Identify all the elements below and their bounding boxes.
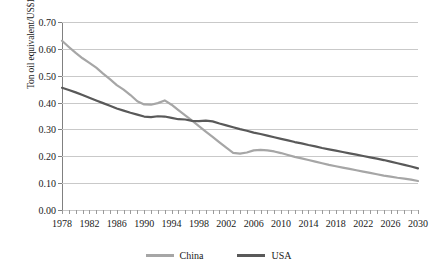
x-tick-mark bbox=[418, 210, 419, 214]
y-tick-label: 0.70 bbox=[39, 17, 57, 28]
legend-label: USA bbox=[271, 250, 291, 261]
x-tick-mark bbox=[370, 210, 371, 214]
legend-swatch-icon bbox=[237, 254, 265, 257]
x-tick-mark bbox=[308, 210, 309, 214]
y-tick-label: 0.10 bbox=[39, 178, 57, 189]
x-tick-mark bbox=[350, 210, 351, 214]
x-tick-mark bbox=[384, 210, 385, 214]
x-tick-mark bbox=[254, 210, 255, 214]
chart-legend: ChinaUSA bbox=[0, 250, 437, 261]
x-tick-mark bbox=[404, 210, 405, 214]
x-tick-label: 2018 bbox=[326, 218, 346, 229]
x-tick-label: 1998 bbox=[189, 218, 209, 229]
x-tick-mark bbox=[329, 210, 330, 214]
x-tick-label: 2010 bbox=[271, 218, 291, 229]
series-line-china bbox=[62, 41, 418, 181]
x-tick-label: 2006 bbox=[244, 218, 264, 229]
x-tick-mark bbox=[185, 210, 186, 214]
x-tick-label: 1982 bbox=[79, 218, 99, 229]
y-tick-label: 0.60 bbox=[39, 43, 57, 54]
y-tick-label: 0.20 bbox=[39, 151, 57, 162]
x-tick-mark bbox=[226, 210, 227, 214]
x-tick-label: 2030 bbox=[408, 218, 428, 229]
x-tick-label: 2014 bbox=[298, 218, 318, 229]
x-tick-mark bbox=[391, 210, 392, 214]
x-tick-label: 1986 bbox=[107, 218, 127, 229]
series-line-usa bbox=[62, 88, 418, 169]
x-tick-mark bbox=[261, 210, 262, 214]
x-tick-mark bbox=[233, 210, 234, 214]
x-tick-mark bbox=[343, 210, 344, 214]
x-tick-mark bbox=[315, 210, 316, 214]
x-tick-mark bbox=[206, 210, 207, 214]
x-tick-mark bbox=[377, 210, 378, 214]
x-tick-mark bbox=[96, 210, 97, 214]
x-tick-label: 1990 bbox=[134, 218, 154, 229]
x-tick-mark bbox=[192, 210, 193, 214]
x-tick-mark bbox=[247, 210, 248, 214]
x-tick-mark bbox=[363, 210, 364, 214]
x-tick-mark bbox=[103, 210, 104, 214]
x-tick-mark bbox=[110, 210, 111, 214]
y-tick-label: 0.40 bbox=[39, 97, 57, 108]
legend-item-usa[interactable]: USA bbox=[237, 250, 291, 261]
x-tick-mark bbox=[137, 210, 138, 214]
x-tick-mark bbox=[130, 210, 131, 214]
x-tick-mark bbox=[288, 210, 289, 214]
x-tick-mark bbox=[281, 210, 282, 214]
legend-item-china[interactable]: China bbox=[146, 250, 204, 261]
x-tick-mark bbox=[411, 210, 412, 214]
x-tick-mark bbox=[117, 210, 118, 214]
x-tick-label: 2002 bbox=[216, 218, 236, 229]
legend-label: China bbox=[180, 250, 204, 261]
x-tick-label: 1994 bbox=[162, 218, 182, 229]
x-tick-mark bbox=[336, 210, 337, 214]
x-tick-mark bbox=[302, 210, 303, 214]
energy-intensity-chart: Ton oil equivalent/US$1000, 1990 0.700.6… bbox=[0, 0, 437, 280]
x-tick-mark bbox=[124, 210, 125, 214]
x-tick-mark bbox=[83, 210, 84, 214]
x-tick-mark bbox=[240, 210, 241, 214]
x-tick-mark bbox=[178, 210, 179, 214]
x-tick-mark bbox=[172, 210, 173, 214]
legend-swatch-icon bbox=[146, 254, 174, 257]
x-tick-mark bbox=[62, 210, 63, 214]
y-tick-label: 0.50 bbox=[39, 70, 57, 81]
x-tick-label: 1978 bbox=[52, 218, 72, 229]
x-tick-mark bbox=[356, 210, 357, 214]
y-tick-label: 0.30 bbox=[39, 124, 57, 135]
x-tick-mark bbox=[76, 210, 77, 214]
x-tick-mark bbox=[151, 210, 152, 214]
x-tick-mark bbox=[89, 210, 90, 214]
x-tick-mark bbox=[165, 210, 166, 214]
x-tick-mark bbox=[219, 210, 220, 214]
x-tick-mark bbox=[274, 210, 275, 214]
x-tick-label: 2022 bbox=[353, 218, 373, 229]
x-tick-mark bbox=[295, 210, 296, 214]
plot-area: 0.700.600.500.400.300.200.100.00 1978198… bbox=[62, 22, 418, 210]
series-lines bbox=[62, 22, 418, 210]
x-tick-mark bbox=[69, 210, 70, 214]
y-tick-label: 0.00 bbox=[39, 205, 57, 216]
x-tick-mark bbox=[158, 210, 159, 214]
x-tick-mark bbox=[267, 210, 268, 214]
x-tick-mark bbox=[322, 210, 323, 214]
x-tick-mark bbox=[144, 210, 145, 214]
x-tick-label: 2026 bbox=[381, 218, 401, 229]
x-tick-mark bbox=[397, 210, 398, 214]
x-tick-mark bbox=[213, 210, 214, 214]
x-tick-mark bbox=[199, 210, 200, 214]
